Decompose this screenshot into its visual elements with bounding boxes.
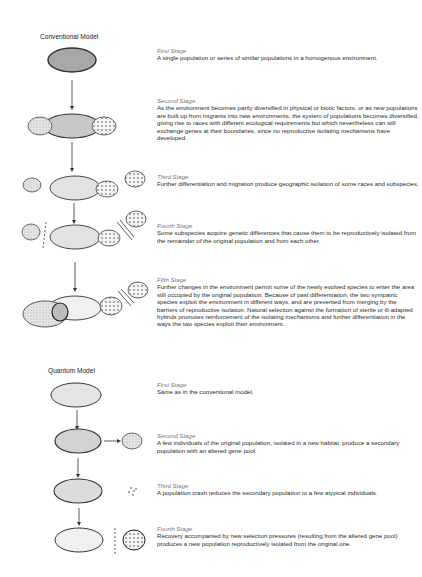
stage-text: Further differentiation and migration pr… <box>157 180 419 187</box>
quantum-stage-3: Third Stage A population crash reduces t… <box>157 482 419 497</box>
quantum-stage1-population <box>51 383 101 407</box>
conv-stage4-population <box>22 211 146 249</box>
stage-name: Fifth Stage <box>157 276 419 283</box>
stage-name: Second Stage <box>157 432 419 439</box>
stage-text: A population crash reduces the secondary… <box>157 489 419 496</box>
stage-name: Second Stage <box>157 97 419 104</box>
stage-name: Third Stage <box>157 482 419 489</box>
quantum-model-title: Quantum Model <box>48 367 95 374</box>
quantum-stage4-population <box>55 528 145 554</box>
stage-name: First Stage <box>157 381 419 388</box>
stage-text: Some subspecies acquire genetic differen… <box>157 229 419 244</box>
conv-stage3-population <box>23 171 145 200</box>
conv-stage-2: Second Stage As the environment becomes … <box>157 97 419 141</box>
stage-name: Fourth Stage <box>157 525 419 532</box>
quantum-stage3-population <box>54 479 137 503</box>
conventional-model-title: Conventional Model <box>40 33 98 40</box>
conv-stage-5: Fifth Stage Further changes in the envir… <box>157 276 419 328</box>
quantum-stage-1: First Stage Same as in the conventional … <box>157 381 419 396</box>
conv-stage-4: Fourth Stage Some subspecies acquire gen… <box>157 222 419 244</box>
conv-stage2-population <box>28 114 116 138</box>
stage-text: A single population or series of similar… <box>157 54 419 61</box>
stage-text: Further changes in the environment permi… <box>157 283 419 327</box>
stage-text: A few individuals of the original popula… <box>157 439 419 454</box>
stage-text: Same as in the conventional model. <box>157 388 419 395</box>
quantum-stage2-population <box>55 429 142 453</box>
stage-name: Third Stage <box>157 173 419 180</box>
conv-stage-1: First Stage A single population or serie… <box>157 47 419 62</box>
stage-text: As the environment becomes partly divers… <box>157 104 419 141</box>
conv-stage1-population <box>48 48 96 72</box>
conv-stage5-population <box>23 282 148 327</box>
stage-name: Fourth Stage <box>157 222 419 229</box>
conv-stage-3: Third Stage Further differentiation and … <box>157 173 419 188</box>
quantum-stage-2: Second Stage A few individuals of the or… <box>157 432 419 454</box>
stage-text: Recovery accompanied by new selection pr… <box>157 532 419 547</box>
stage-name: First Stage <box>157 47 419 54</box>
quantum-stage-4: Fourth Stage Recovery accompanied by new… <box>157 525 419 547</box>
